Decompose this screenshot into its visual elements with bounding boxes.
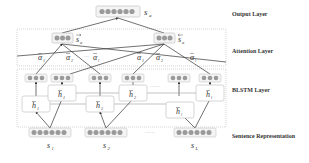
- svg-text:s: s: [103, 141, 106, 150]
- output-layer-label: Output Layer: [232, 11, 268, 17]
- sentence-1: s 1: [29, 128, 71, 151]
- svg-text:h: h: [129, 90, 133, 99]
- attn-backward-label: s: [178, 35, 181, 44]
- blstm-layer-label: BLSTM Layer: [232, 87, 270, 93]
- svg-text:2: 2: [71, 58, 73, 63]
- svg-text:······: ······: [150, 84, 160, 89]
- svg-text:···: ···: [84, 54, 89, 59]
- svg-text:2: 2: [101, 106, 103, 111]
- svg-text:h: h: [96, 101, 100, 110]
- h-backward-boxes: h 1 h 2 h l: [48, 85, 224, 101]
- svg-text:1: 1: [142, 58, 144, 63]
- sentence-2: s 2: [85, 128, 127, 151]
- sentence-representation-label: Sentence Representation: [232, 133, 296, 139]
- sentence-L: s L: [174, 128, 216, 151]
- blstm-attention-diagram: s a s a s a α 1 α 2 ··· α l α 1 α 2 ··· …: [0, 0, 309, 163]
- svg-text:s: s: [47, 141, 50, 150]
- attention-forward-node: s a: [52, 33, 83, 45]
- attention-backward-node: s a: [154, 33, 185, 45]
- sentence-representations: s 1 s 2 ······ s L: [29, 128, 216, 151]
- svg-text:h: h: [58, 90, 62, 99]
- svg-text:h: h: [206, 90, 210, 99]
- attention-weights: α 1 α 2 ··· α l α 1 α 2 ··· α l: [38, 53, 197, 63]
- svg-text:1: 1: [37, 106, 39, 111]
- svg-text:1: 1: [63, 95, 65, 100]
- svg-text:l: l: [98, 58, 100, 63]
- attention-layer-label: Attention Layer: [232, 48, 273, 54]
- attn-forward-sub: a: [80, 40, 83, 45]
- attn-forward-label: s: [76, 35, 79, 44]
- svg-text:···: ···: [170, 54, 175, 59]
- svg-text:2: 2: [134, 95, 136, 100]
- svg-text:s: s: [191, 141, 194, 150]
- svg-text:······: ······: [145, 130, 155, 135]
- output-label-sub: a: [149, 13, 152, 18]
- svg-text:h: h: [32, 101, 36, 110]
- output-vector: s a: [96, 6, 152, 18]
- attn-backward-sub: a: [182, 40, 185, 45]
- svg-text:2: 2: [108, 146, 111, 151]
- svg-text:1: 1: [52, 146, 54, 151]
- output-label: s: [144, 7, 148, 17]
- svg-text:2: 2: [161, 58, 163, 63]
- svg-text:1: 1: [43, 58, 45, 63]
- svg-text:L: L: [195, 146, 199, 151]
- svg-text:h: h: [176, 107, 180, 116]
